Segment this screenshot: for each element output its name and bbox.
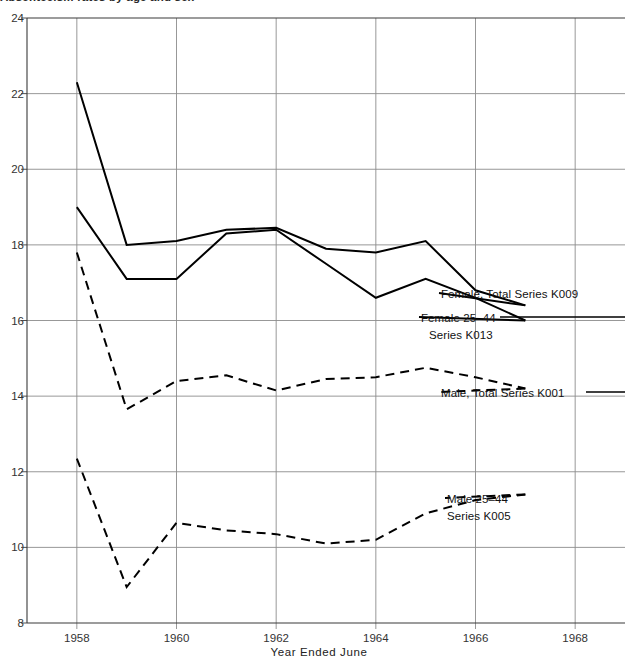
annotation-male-total: Male, Total Series K001 (441, 386, 565, 401)
annotation-male-2544-line1: Male 25–44 (447, 492, 508, 507)
y-axis-tick-label: 14 (2, 390, 24, 402)
chart-page: Absenteeism rates by age and sex 8101214… (0, 0, 629, 665)
gridlines (27, 18, 625, 629)
series-line-k009 (77, 82, 526, 305)
y-axis-tick-label: 16 (2, 315, 24, 327)
y-axis-tick-label: 10 (2, 541, 24, 553)
y-axis-tick-label: 8 (2, 617, 24, 629)
x-axis-tick-label: 1966 (454, 632, 498, 644)
annotation-female-total: Female, Total Series K009 (441, 287, 578, 302)
series-line-k013 (77, 207, 526, 320)
y-axis-tick-label: 20 (2, 163, 24, 175)
annotation-female-2544-line1: Female 25–44 (421, 311, 496, 326)
x-axis-tick-label: 1960 (155, 632, 199, 644)
y-axis-tick-label: 24 (2, 12, 24, 24)
x-axis-tick-label: 1968 (553, 632, 597, 644)
y-axis-tick-label: 12 (2, 466, 24, 478)
y-axis-tick-label: 22 (2, 88, 24, 100)
annotation-male-2544-line2: Series K005 (447, 509, 511, 524)
x-axis-tick-label: 1958 (55, 632, 99, 644)
chart-plot-area (0, 0, 629, 665)
annotation-female-2544-line2: Series K013 (429, 328, 493, 343)
x-axis-title: Year Ended June (219, 646, 419, 658)
y-axis-tick-label: 18 (2, 239, 24, 251)
x-axis-tick-label: 1962 (254, 632, 298, 644)
x-axis-tick-label: 1964 (354, 632, 398, 644)
